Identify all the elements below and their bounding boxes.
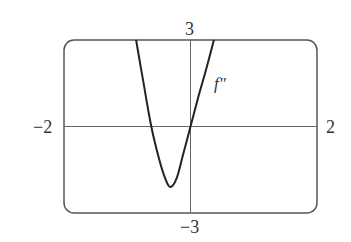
plot-area xyxy=(0,0,351,242)
x-min-label: −2 xyxy=(33,118,52,136)
y-max-label: 3 xyxy=(185,20,194,38)
y-min-label: −3 xyxy=(180,218,199,236)
x-max-label: 2 xyxy=(326,118,335,136)
f-double-prime-curve xyxy=(136,40,214,187)
curve-label: f″ xyxy=(214,74,226,94)
